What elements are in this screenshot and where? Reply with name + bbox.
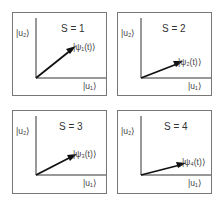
panel-s1: |u₂⟩ S = 1 |ψ₁(t)⟩ |u₁⟩ bbox=[12, 12, 107, 96]
x-axis-label: |u₁⟩ bbox=[188, 81, 202, 91]
panel-title: S = 2 bbox=[162, 23, 186, 34]
panel-title: S = 1 bbox=[61, 23, 85, 34]
y-axis-label: |u₂⟩ bbox=[121, 28, 135, 38]
x-axis-label: |u₁⟩ bbox=[188, 178, 202, 188]
panel-title: S = 3 bbox=[59, 121, 83, 132]
vector-label: |ψ₃(t)⟩ bbox=[73, 149, 97, 159]
panel-s4: |u₂⟩ S = 4 |ψ₄(t)⟩ |u₁⟩ bbox=[117, 110, 212, 194]
x-axis-label: |u₁⟩ bbox=[83, 178, 97, 188]
y-axis-label: |u₂⟩ bbox=[16, 126, 30, 136]
y-axis-label: |u₂⟩ bbox=[16, 28, 30, 38]
vector-label: |ψ₂(t)⟩ bbox=[178, 57, 202, 67]
vector-label: |ψ₁(t)⟩ bbox=[73, 42, 96, 52]
vector-label: |ψ₄(t)⟩ bbox=[182, 157, 206, 167]
panel-s2: |u₂⟩ S = 2 |ψ₂(t)⟩ |u₁⟩ bbox=[117, 12, 212, 96]
panel-title: S = 4 bbox=[164, 121, 188, 132]
y-axis-label: |u₂⟩ bbox=[121, 126, 135, 136]
panel-s3: |u₂⟩ S = 3 |ψ₃(t)⟩ |u₁⟩ bbox=[12, 110, 107, 194]
x-axis-label: |u₁⟩ bbox=[83, 81, 97, 91]
